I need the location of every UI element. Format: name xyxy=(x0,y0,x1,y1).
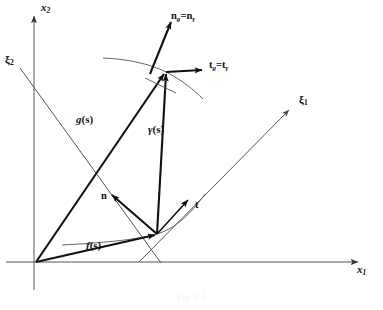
vector-label-g-arg: (s) xyxy=(82,113,94,125)
vector-label-f: f(s) xyxy=(86,240,101,251)
vector-n-g-line xyxy=(150,22,171,74)
vector-label-g: g(s) xyxy=(76,114,93,125)
axis-lines xyxy=(6,16,358,290)
vector-label-gamma-arg: (s) xyxy=(153,123,165,135)
vector-lines xyxy=(36,22,202,262)
vector-label-n-g: ng=nγ xyxy=(171,11,195,23)
vector-label-t: t xyxy=(195,200,199,211)
axis-xi2-line xyxy=(20,68,161,263)
vector-t-g-line xyxy=(166,70,202,72)
lower-curve-path xyxy=(62,194,205,245)
axis-label-x1: x1 xyxy=(357,264,366,277)
axis-label-xi1: ξ1 xyxy=(299,94,308,107)
vector-gamma-line xyxy=(157,74,166,234)
figure-caption: Fig. 2.1 xyxy=(0,292,383,301)
vector-label-f-arg: (s) xyxy=(90,239,102,251)
vector-label-n-gamma-subscript: γ xyxy=(192,15,195,23)
vector-n-line xyxy=(112,195,157,234)
vector-g-line xyxy=(36,74,164,262)
figure-drawing xyxy=(0,0,383,310)
vector-label-gamma: γ(s) xyxy=(148,124,164,135)
axis-label-xi2: ξ2 xyxy=(5,54,14,67)
vector-label-t-gamma-subscript: γ xyxy=(226,64,229,72)
axis-label-x2-subscript: 2 xyxy=(47,6,51,15)
axis-label-xi1-subscript: 1 xyxy=(304,98,308,107)
axis-label-xi2-subscript: 2 xyxy=(10,58,14,67)
figure-root: x2 x1 ξ1 ξ2 f(s) g(s) γ(s) n t ng=nγ tg=… xyxy=(0,0,383,310)
axis-label-x1-subscript: 1 xyxy=(363,268,367,277)
axis-label-x2: x2 xyxy=(41,2,50,15)
vector-label-n: n xyxy=(101,191,107,202)
vector-label-t-g: tg=tγ xyxy=(209,60,229,72)
oblique-axis-lines xyxy=(20,68,289,263)
